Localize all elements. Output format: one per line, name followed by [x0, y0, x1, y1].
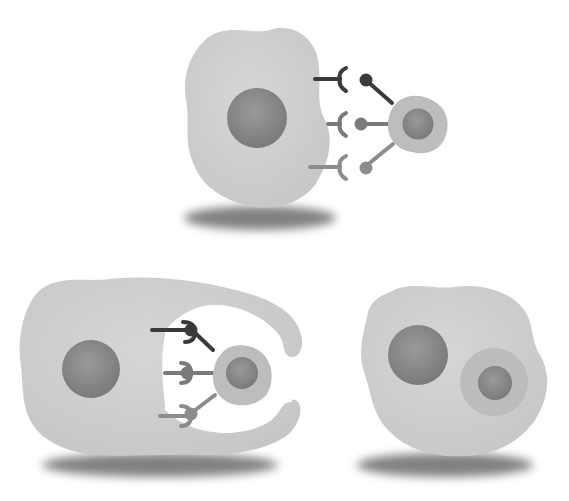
- target-nucleus: [403, 109, 434, 140]
- panel-ingestion: [357, 286, 547, 477]
- macrophage-nucleus: [388, 325, 448, 385]
- target-nucleus: [226, 357, 258, 389]
- shadow: [42, 453, 278, 477]
- panel-recognition: [184, 28, 448, 230]
- receptor-mid: [328, 113, 346, 136]
- macrophage-nucleus: [62, 340, 120, 398]
- macrophage-nucleus: [227, 88, 287, 148]
- phagosome-nucleus: [478, 366, 512, 400]
- phagocytosis-diagram: [0, 0, 569, 501]
- panel-engulfment: [20, 277, 302, 477]
- shadow: [184, 206, 336, 230]
- ligands: [355, 74, 394, 175]
- shadow: [357, 453, 533, 477]
- receptor-dark: [315, 68, 346, 91]
